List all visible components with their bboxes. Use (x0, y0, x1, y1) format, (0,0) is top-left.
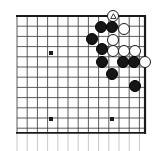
star-point (110, 117, 114, 121)
star-point (49, 117, 53, 121)
board-grid (0, 0, 162, 151)
triangle-icon (110, 13, 115, 18)
go-board-surface[interactable] (0, 0, 162, 151)
star-point (49, 51, 53, 55)
go-board-figure (0, 0, 162, 151)
